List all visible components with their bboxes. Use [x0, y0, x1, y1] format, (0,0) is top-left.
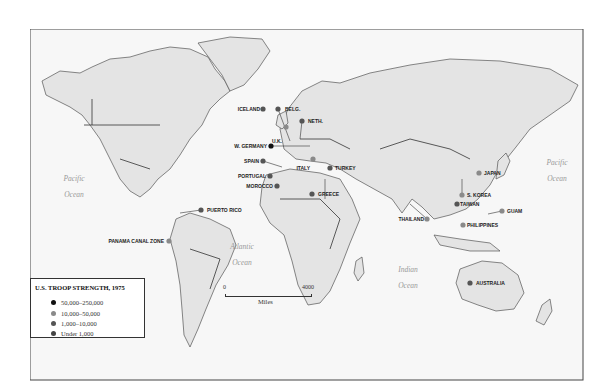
ocean-label: Ocean — [232, 258, 252, 267]
ocean-label: Pacific — [62, 174, 85, 183]
legend-item: 10,000–50,000 — [51, 310, 100, 317]
location-label: GUAM — [507, 208, 522, 214]
marker-dot-icon — [309, 191, 314, 196]
location-label: PANAMA CANAL ZONE — [109, 238, 165, 244]
location-label: TAIWAN — [460, 201, 480, 207]
location-label: S. KOREA — [467, 192, 492, 198]
marker-dot-icon — [275, 106, 280, 111]
location-label: SPAIN — [244, 158, 259, 164]
location-label: AUSTRALIA — [476, 280, 505, 286]
location-label: NETH. — [308, 118, 324, 124]
location-marker: PANAMA CANAL ZONE — [109, 238, 172, 244]
marker-dot-icon — [51, 300, 56, 305]
ocean-label: Atlantic — [229, 242, 254, 251]
location-label: JAPAN — [484, 170, 501, 176]
marker-dot-icon — [299, 118, 304, 123]
legend-item: Under 1,000 — [51, 330, 94, 337]
legend-item-label: Under 1,000 — [61, 330, 94, 337]
marker-dot-icon — [260, 158, 265, 163]
scale-unit-label: Miles — [258, 298, 273, 305]
marker-dot-icon — [283, 124, 288, 129]
location-label: ICELAND — [238, 106, 261, 112]
location-label: TURKEY — [335, 165, 356, 171]
location-label: ITALY — [296, 165, 310, 171]
legend-title: U.S. TROOP STRENGTH, 1975 — [35, 284, 125, 291]
marker-dot-icon — [459, 192, 464, 197]
scale-min-label: 0 — [223, 284, 226, 290]
ocean-label: Ocean — [64, 190, 84, 199]
ocean-label: Pacific — [545, 158, 568, 167]
marker-dot-icon — [274, 183, 279, 188]
location-label: PHILIPPINES — [467, 222, 499, 228]
legend-item: 50,000–250,000 — [51, 299, 103, 306]
ocean-label: Indian — [397, 265, 418, 274]
marker-dot-icon — [460, 222, 465, 227]
marker-dot-icon — [260, 106, 265, 111]
marker-dot-icon — [476, 170, 481, 175]
location-label: W. GERMANY — [234, 143, 267, 149]
marker-dot-icon — [424, 216, 429, 221]
ocean-label: Ocean — [398, 281, 418, 290]
marker-dot-icon — [267, 173, 272, 178]
legend-item-label: 10,000–50,000 — [61, 310, 100, 317]
location-label: THAILAND — [398, 216, 424, 222]
legend-item-label: 50,000–250,000 — [61, 299, 103, 306]
legend-item-label: 1,000–10,000 — [61, 320, 97, 327]
location-label: U.K. — [272, 138, 283, 144]
location-label: PORTUGAL — [238, 173, 266, 179]
marker-dot-icon — [51, 331, 56, 336]
legend: U.S. TROOP STRENGTH, 1975 50,000–250,000… — [30, 278, 145, 338]
marker-dot-icon — [198, 207, 203, 212]
location-label: MOROCCO — [246, 183, 273, 189]
location-label: PUERTO RICO — [207, 207, 242, 213]
location-label: BELG. — [285, 106, 301, 112]
marker-dot-icon — [499, 208, 504, 213]
marker-dot-icon — [51, 311, 56, 316]
legend-item: 1,000–10,000 — [51, 320, 97, 327]
marker-dot-icon — [310, 156, 315, 161]
marker-dot-icon — [51, 321, 56, 326]
location-marker: JAPAN — [476, 170, 501, 176]
scale-bar: 0 4000 Miles — [222, 284, 318, 312]
location-marker: TAIWAN — [454, 201, 479, 207]
ocean-label: Ocean — [547, 174, 567, 183]
location-marker: PHILIPPINES — [460, 222, 498, 228]
marker-dot-icon — [166, 238, 171, 243]
scale-max-label: 4000 — [302, 284, 314, 290]
marker-dot-icon — [454, 201, 459, 206]
marker-dot-icon — [467, 280, 472, 285]
scale-line — [225, 294, 312, 297]
location-label: GREECE — [318, 191, 340, 197]
marker-dot-icon — [268, 143, 273, 148]
marker-dot-icon — [327, 165, 332, 170]
